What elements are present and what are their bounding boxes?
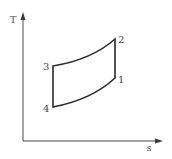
state-point-1-label: 1 [118, 74, 124, 85]
state-point-3-label: 3 [43, 61, 49, 72]
state-point-4-label: 4 [43, 103, 49, 114]
t-axis-label: T [10, 14, 17, 25]
t-axis-arrow-icon [21, 12, 26, 20]
state-point-2-label: 2 [118, 34, 124, 45]
s-axis-arrow-icon [155, 139, 163, 144]
ts-diagram: T s 1 2 3 4 [0, 0, 172, 159]
s-axis-label: s [146, 142, 151, 153]
cycle-path [53, 39, 115, 107]
